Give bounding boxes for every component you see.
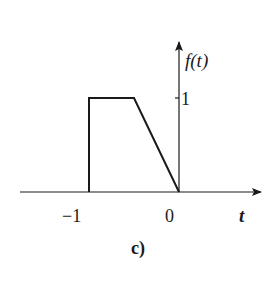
y-tick-label-1: 1 <box>181 89 190 109</box>
signal-curve <box>89 98 179 192</box>
signal-diagram: f(t) 1 −1 0 t c) <box>0 0 279 291</box>
y-axis-label: f(t) <box>185 50 208 72</box>
x-tick-label-neg1: −1 <box>62 206 81 226</box>
x-axis-label: t <box>239 205 245 226</box>
figure-caption: c) <box>131 238 145 259</box>
x-tick-label-0: 0 <box>165 206 174 226</box>
